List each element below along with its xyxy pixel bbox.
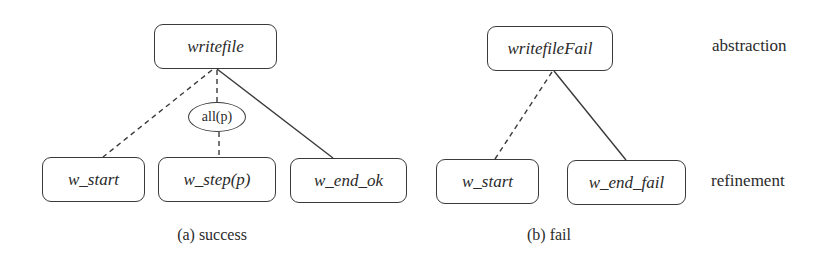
node-w-end-ok: w_end_ok: [290, 158, 407, 203]
node-writefile: writefile: [154, 24, 277, 69]
node-w-end-fail-label: w_end_fail: [589, 173, 665, 193]
edges-layer: [0, 0, 836, 259]
edge-writefilefail-w-start-dashed: [495, 72, 552, 159]
quantifier-all-p-label: all(p): [202, 109, 232, 125]
level-label-refinement: refinement: [711, 171, 785, 191]
quantifier-all-p: all(p): [188, 102, 246, 132]
node-writefilefail-label: writefileFail: [508, 39, 593, 59]
node-w-step-p: w_step(p): [158, 157, 276, 202]
node-writefile-label: writefile: [187, 37, 244, 57]
level-label-abstraction: abstraction: [712, 36, 787, 56]
caption-b: (b) fail: [527, 226, 571, 244]
node-w-start-a-label: w_start: [68, 170, 119, 190]
node-w-start-a: w_start: [42, 157, 145, 202]
node-writefilefail: writefileFail: [487, 26, 613, 71]
node-w-start-b-label: w_start: [462, 172, 513, 192]
edge-writefilefail-w-end-fail-solid: [554, 71, 626, 160]
node-w-end-fail: w_end_fail: [567, 160, 686, 205]
node-w-end-ok-label: w_end_ok: [314, 171, 383, 191]
caption-a: (a) success: [177, 226, 247, 244]
node-w-start-b: w_start: [436, 159, 539, 204]
node-w-step-p-label: w_step(p): [183, 170, 250, 190]
